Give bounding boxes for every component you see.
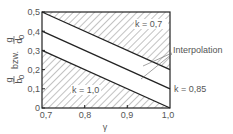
y-tick-label: 0,2 (27, 65, 40, 75)
chart: 0 0,1 0,2 0,3 0,4 0,5 0,7 0,8 0,9 1,0 γ … (0, 0, 233, 134)
x-tick-label: 0,9 (121, 110, 134, 120)
y-axis-label: g b o bzw. g d o (4, 34, 26, 84)
svg-text:bzw.: bzw. (10, 51, 20, 69)
y-tick-label: 0,5 (27, 7, 40, 17)
x-tick-label: 1,0 (162, 110, 175, 120)
svg-text:g: g (4, 37, 14, 42)
y-tick-label: 0,4 (27, 27, 40, 37)
x-axis-label: γ (103, 122, 108, 132)
y-tick-label: 0,1 (27, 84, 40, 94)
annotation-interpolation: Interpolation (173, 45, 223, 55)
y-tick-label: 0,3 (27, 46, 40, 56)
annotation-k-0-7: k = 0,7 (135, 19, 162, 29)
svg-text:o: o (16, 74, 26, 79)
x-axis: 0,7 0,8 0,9 1,0 γ (40, 105, 175, 132)
x-tick-label: 0,7 (40, 110, 53, 120)
x-tick-label: 0,8 (79, 110, 92, 120)
annotation-k-1-0: k = 1,0 (72, 85, 99, 95)
svg-text:g: g (4, 77, 14, 82)
svg-text:o: o (16, 34, 26, 39)
annotation-k-0-85: k = 0,85 (174, 84, 206, 94)
